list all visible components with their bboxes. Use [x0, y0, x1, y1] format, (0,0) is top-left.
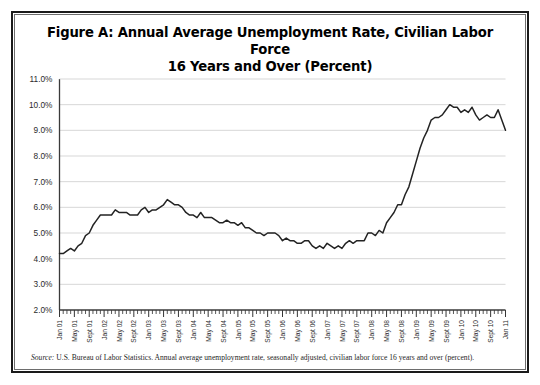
- y-tick-label: 11.0%: [30, 74, 54, 84]
- x-tick-label: Sept 08: [398, 320, 406, 343]
- x-tick-label: Jan 10: [458, 320, 465, 340]
- source-label: Source:: [31, 353, 54, 362]
- x-tick-label: Sept 09: [443, 320, 451, 343]
- y-tick-label: 2.0%: [34, 305, 54, 315]
- x-tick-label: Sept 05: [264, 320, 272, 343]
- y-tick-label: 3.0%: [34, 279, 54, 289]
- x-tick-label: Jan 01: [56, 320, 63, 340]
- x-tick-label: May 05: [249, 320, 257, 342]
- x-tick-label: Jan 09: [413, 320, 420, 340]
- axis-lines: [60, 79, 506, 310]
- figure-container: Figure A: Annual Average Unemployment Ra…: [0, 0, 540, 385]
- y-axis-tick-labels: 11.0%10.0%9.0%8.0%7.0%6.0%5.0%4.0%3.0%2.…: [29, 74, 53, 315]
- x-tick-label: May 04: [205, 320, 213, 342]
- x-tick-label: May 08: [383, 320, 391, 342]
- x-tick-label: Jan 04: [190, 320, 197, 340]
- x-tick-label: May 07: [339, 320, 347, 342]
- y-tick-label: 10.0%: [29, 100, 53, 110]
- source-note: Source: U.S. Bureau of Labor Statistics.…: [31, 353, 509, 363]
- x-axis-tick-marks: [60, 310, 506, 317]
- x-axis-tick-labels: Jan 01May 01Sept 01Jan 02May 02Sept 02Ja…: [56, 320, 509, 343]
- unemployment-rate-line: [60, 105, 506, 254]
- x-tick-label: Sept 03: [175, 320, 183, 343]
- x-tick-label: May 02: [116, 320, 124, 342]
- x-tick-label: May 03: [160, 320, 168, 342]
- x-tick-label: Sept 10: [487, 320, 495, 343]
- y-tick-label: 6.0%: [34, 202, 54, 212]
- source-text: U.S. Bureau of Labor Statistics. Annual …: [56, 353, 474, 362]
- x-tick-label: Jan 08: [368, 320, 375, 340]
- x-tick-label: Sept 04: [220, 320, 228, 343]
- y-tick-label: 7.0%: [34, 177, 54, 187]
- x-tick-label: Jan 07: [324, 320, 331, 340]
- x-tick-label: May 06: [294, 320, 302, 342]
- x-tick-label: Jan 05: [235, 320, 242, 340]
- y-tick-label: 4.0%: [34, 254, 54, 264]
- x-tick-label: Jan 11: [502, 320, 509, 340]
- gridlines: [60, 105, 506, 285]
- x-tick-label: Jan 02: [101, 320, 108, 340]
- x-tick-label: Sept 02: [130, 320, 138, 343]
- x-tick-label: May 01: [71, 320, 79, 342]
- y-tick-label: 9.0%: [34, 125, 54, 135]
- x-tick-label: May 09: [428, 320, 436, 342]
- x-tick-label: Sept 01: [86, 320, 94, 343]
- y-tick-label: 5.0%: [34, 228, 54, 238]
- x-tick-label: May 10: [472, 320, 480, 342]
- unemployment-rate-series: [60, 105, 506, 254]
- x-tick-label: Jan 03: [145, 320, 152, 340]
- x-tick-label: Sept 07: [353, 320, 361, 343]
- y-tick-label: 8.0%: [34, 151, 54, 161]
- unemployment-line-chart: 11.0%10.0%9.0%8.0%7.0%6.0%5.0%4.0%3.0%2.…: [0, 0, 540, 352]
- x-tick-label: Jan 06: [279, 320, 286, 340]
- x-tick-label: Sept 06: [309, 320, 317, 343]
